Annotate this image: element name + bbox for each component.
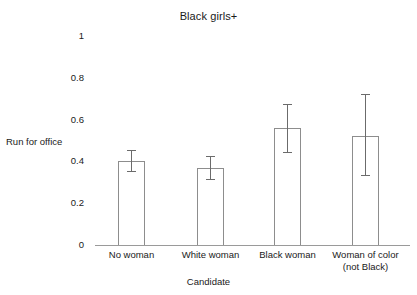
error-bar-line (210, 157, 211, 180)
y-axis-title: Run for office (6, 136, 62, 147)
x-tick-label-line: (not Black) (316, 261, 416, 273)
error-bar-line (287, 105, 288, 153)
y-tick-label: 0.6 (48, 114, 84, 125)
bar-group (274, 29, 301, 245)
error-bar-cap-upper (283, 104, 292, 105)
bar-group (118, 29, 145, 245)
chart-title: Black girls+ (0, 10, 417, 22)
y-tick-label: 0.2 (48, 197, 84, 208)
bar (118, 161, 145, 245)
x-tick-label-line: Woman of color (316, 249, 416, 261)
error-bar-line (365, 95, 366, 177)
x-tick-label: Woman of color(not Black) (316, 249, 416, 272)
error-bar-cap-upper (206, 156, 215, 157)
error-bar-cap-lower (283, 152, 292, 153)
y-tick-label: 0 (48, 239, 84, 250)
error-bar-cap-upper (127, 150, 136, 151)
y-tick-label: 1 (48, 30, 84, 41)
plot-area (95, 30, 410, 246)
x-axis-line (95, 245, 410, 246)
x-axis-title: Candidate (0, 276, 417, 287)
bar-group (197, 29, 224, 245)
chart-container: Black girls+ Run for office 00.20.40.60.… (0, 0, 417, 295)
error-bar-cap-lower (361, 175, 370, 176)
error-bar-cap-upper (361, 94, 370, 95)
error-bar-cap-lower (206, 179, 215, 180)
error-bar-line (131, 151, 132, 172)
bar-group (352, 29, 379, 245)
y-tick-label: 0.8 (48, 72, 84, 83)
error-bar-cap-lower (127, 171, 136, 172)
y-tick-label: 0.4 (48, 155, 84, 166)
